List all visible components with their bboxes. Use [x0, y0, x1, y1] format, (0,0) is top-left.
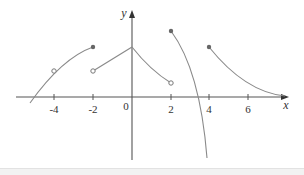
y-axis-label: y — [120, 6, 127, 20]
piece-2-segment — [93, 47, 132, 71]
tick-label: -4 — [49, 103, 59, 115]
origin-label: 0 — [123, 100, 129, 112]
open-point-marker — [91, 69, 95, 73]
tick-label: 6 — [245, 103, 251, 115]
bottom-divider — [0, 168, 304, 175]
piece-3-curve — [132, 47, 171, 83]
axes — [16, 16, 284, 160]
piece-5-curve — [209, 47, 285, 96]
piece-4-curve — [171, 31, 207, 158]
closed-point-marker — [91, 45, 95, 49]
piece-1-curve — [30, 47, 93, 103]
open-point-marker — [169, 81, 173, 85]
curves — [30, 31, 285, 158]
closed-point-marker — [169, 29, 173, 33]
tick-label: -2 — [88, 103, 97, 115]
x-axis-label: x — [282, 98, 289, 112]
closed-points — [91, 29, 211, 49]
closed-point-marker — [207, 45, 211, 49]
y-axis-arrow-icon — [129, 10, 135, 18]
tick-label: 2 — [168, 103, 174, 115]
tick-label: 4 — [206, 103, 212, 115]
piecewise-function-graph: -4 -2 0 2 4 6 x y — [0, 0, 304, 175]
open-point-marker — [52, 69, 56, 73]
